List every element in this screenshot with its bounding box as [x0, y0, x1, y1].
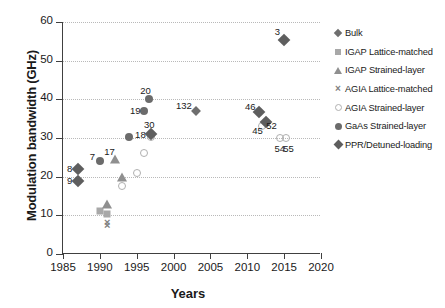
legend-marker-diamond-ppr-icon: [331, 141, 345, 148]
point-annotation: 46: [245, 100, 256, 111]
data-point: [125, 133, 133, 141]
y-tick-label: 40: [21, 91, 53, 103]
gridline: [63, 215, 320, 216]
legend-item[interactable]: ×AGIA Lattice-matched: [331, 80, 443, 99]
y-tick-mark: [56, 22, 63, 23]
data-point: [140, 107, 148, 115]
legend-item[interactable]: IGAP Lattice-matched: [331, 43, 443, 62]
x-tick-mark: [210, 253, 211, 259]
legend-marker-circle-open-icon: [331, 104, 345, 111]
legend-label: AGIA Strained-layer: [345, 103, 424, 113]
point-annotation: 9: [67, 174, 72, 185]
y-tick-label: 50: [21, 53, 53, 65]
y-tick-label: 60: [21, 14, 53, 26]
point-annotation: 52: [266, 119, 277, 130]
x-tick-label: 1985: [43, 261, 83, 273]
point-annotation: 17: [104, 146, 115, 157]
x-tick-label: 2020: [301, 261, 341, 273]
legend: BulkIGAP Lattice-matchedIGAP Strained-la…: [331, 24, 443, 154]
point-annotation: 18: [135, 129, 146, 140]
gridline: [63, 22, 320, 23]
legend-marker-cross-icon: ×: [331, 84, 345, 94]
x-tick-label: 2005: [190, 261, 230, 273]
point-annotation: 20: [140, 85, 151, 96]
chart-figure: Modulation bandwidth (GHz) Years 0102030…: [0, 0, 445, 308]
legend-label: GaAs Strained-layer: [345, 121, 426, 131]
legend-marker-square-icon: [331, 49, 345, 55]
data-point: [140, 149, 148, 157]
y-tick-mark: [56, 99, 63, 100]
legend-marker-triangle-icon: [331, 67, 345, 74]
legend-item[interactable]: AGIA Strained-layer: [331, 98, 443, 117]
data-point: [282, 134, 290, 142]
legend-label: PPR/Detuned-loading: [345, 140, 432, 150]
y-tick-mark: [56, 215, 63, 216]
x-tick-label: 1990: [80, 261, 120, 273]
x-tick-label: 2015: [264, 261, 304, 273]
data-point: ×: [103, 221, 112, 230]
point-annotation: 19: [130, 105, 141, 116]
y-tick-mark: [56, 177, 63, 178]
data-point: [191, 106, 201, 116]
x-tick-label: 2010: [227, 261, 267, 273]
data-point: [96, 157, 104, 165]
legend-label: IGAP Lattice-matched: [345, 47, 433, 57]
data-point: [102, 199, 112, 208]
point-annotation: 8: [67, 163, 72, 174]
legend-item[interactable]: Bulk: [331, 24, 443, 43]
legend-marker-circle-fill-icon: [331, 123, 345, 130]
point-annotation: 3: [275, 26, 280, 37]
gridline: [63, 177, 320, 178]
legend-label: AGIA Lattice-matched: [345, 84, 432, 94]
x-axis-title: Years: [58, 286, 318, 301]
data-point: [145, 95, 153, 103]
point-annotation: 7: [90, 150, 95, 161]
data-point: [117, 172, 127, 181]
x-tick-mark: [284, 253, 285, 259]
x-tick-mark: [100, 253, 101, 259]
point-annotation: 55: [283, 143, 294, 154]
legend-item[interactable]: GaAs Strained-layer: [331, 117, 443, 136]
y-tick-label: 10: [21, 207, 53, 219]
x-tick-label: 1995: [117, 261, 157, 273]
y-tick-mark: [56, 138, 63, 139]
x-tick-label: 2000: [154, 261, 194, 273]
y-tick-mark: [56, 254, 63, 255]
plot-area: 0102030405060 19851990199520002005201020…: [62, 22, 320, 254]
y-tick-mark: [56, 61, 63, 62]
gridline: [63, 61, 320, 62]
data-point: [133, 169, 141, 177]
y-tick-label: 20: [21, 169, 53, 181]
legend-marker-diamond-bulk-icon: [331, 30, 345, 36]
legend-item[interactable]: PPR/Detuned-loading: [331, 136, 443, 155]
data-point: [118, 182, 126, 190]
legend-label: Bulk: [345, 28, 363, 38]
x-tick-mark: [247, 253, 248, 259]
y-tick-label: 0: [21, 246, 53, 258]
legend-item[interactable]: IGAP Strained-layer: [331, 61, 443, 80]
x-tick-mark: [174, 253, 175, 259]
x-tick-mark: [63, 253, 64, 259]
point-annotation: 45: [252, 125, 263, 136]
legend-label: IGAP Strained-layer: [345, 65, 425, 75]
point-annotation: 132: [176, 99, 192, 110]
x-tick-mark: [137, 253, 138, 259]
y-tick-label: 30: [21, 130, 53, 142]
data-point: [96, 207, 103, 214]
x-tick-mark: [321, 253, 322, 259]
